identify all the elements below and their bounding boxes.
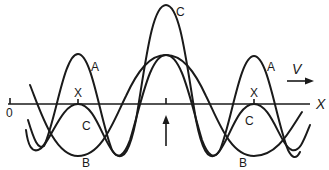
label-c-left: C: [82, 119, 91, 133]
label-velocity: V: [292, 61, 303, 77]
curve-c: [26, 5, 310, 156]
label-b-right: B: [239, 156, 247, 170]
label-a-left: A: [91, 60, 99, 74]
label-c-right: C: [245, 114, 254, 128]
label-x-left: X: [74, 86, 82, 100]
label-b-left: B: [82, 156, 90, 170]
label-origin: 0: [6, 106, 13, 120]
label-axis-x: X: [315, 96, 326, 112]
label-c-top: C: [176, 5, 185, 19]
right-arrow-icon: [305, 78, 314, 85]
up-arrow-icon: [163, 115, 170, 124]
label-x-right: X: [250, 86, 258, 100]
wave-diagram: 0 X V A A C C C B B X X: [0, 0, 329, 170]
label-a-right: A: [267, 60, 275, 74]
